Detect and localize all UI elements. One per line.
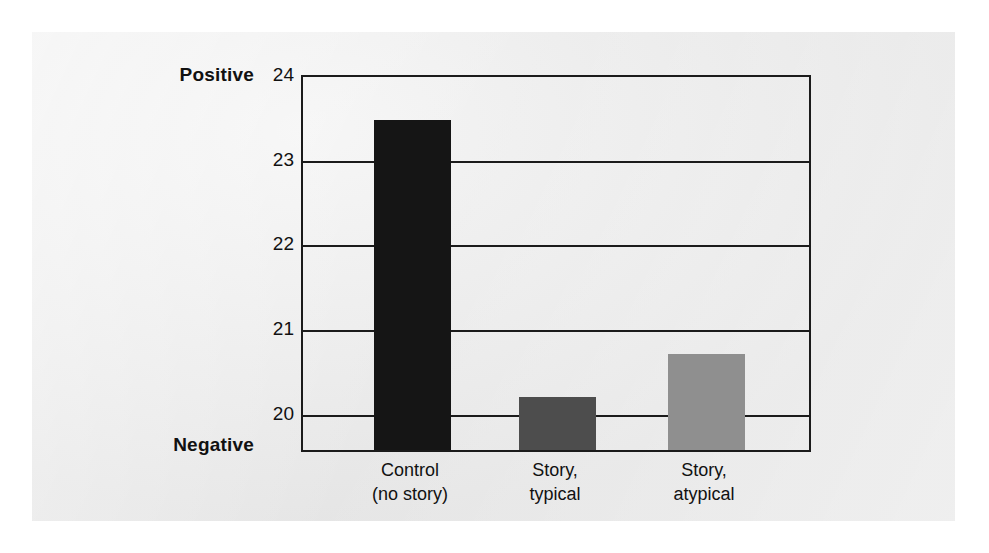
y-axis-tick-labels: 2423222120 xyxy=(238,75,294,452)
y-tick-label-20: 20 xyxy=(248,403,294,425)
y-tick-label-24: 24 xyxy=(248,64,294,86)
bar-2 xyxy=(519,397,596,450)
bar-3 xyxy=(668,354,745,450)
x-label-line: atypical xyxy=(614,482,794,506)
x-label-line: Story, xyxy=(614,458,794,482)
plot-area xyxy=(301,75,811,452)
y-tick-label-21: 21 xyxy=(248,318,294,340)
figure: Positive Negative 2423222120 Control(no … xyxy=(0,0,989,553)
x-label-3: Story,atypical xyxy=(614,458,794,506)
y-tick-label-23: 23 xyxy=(248,149,294,171)
x-axis-category-labels: Control(no story)Story,typicalStory,atyp… xyxy=(301,458,811,514)
y-tick-label-22: 22 xyxy=(248,233,294,255)
bar-1 xyxy=(374,120,451,450)
